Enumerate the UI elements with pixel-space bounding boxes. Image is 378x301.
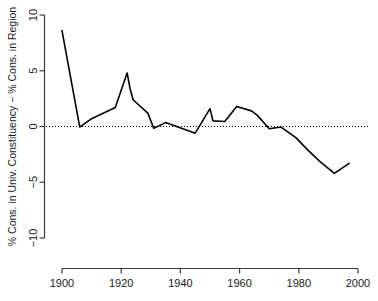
- x-tick-label-1940: 1940: [168, 277, 192, 289]
- line-chart-plot: 10 5 0 −5 −10 % Cons. in Univ. Constitue…: [0, 0, 378, 301]
- chart-container: 10 5 0 −5 −10 % Cons. in Univ. Constitue…: [0, 0, 378, 301]
- y-tick-label-minus-5: −5: [27, 176, 39, 189]
- x-tick-label-1900: 1900: [50, 277, 74, 289]
- x-axis-tick-labels: 1900 1920 1940 1960 1980 2000: [50, 277, 370, 289]
- y-axis-tick-labels: 10 5 0 −5 −10: [27, 9, 39, 247]
- y-tick-label-10: 10: [27, 9, 39, 21]
- y-tick-label-5: 5: [27, 68, 39, 74]
- x-tick-label-2000: 2000: [346, 277, 370, 289]
- y-axis-title: % Cons. in Univ. Constituency − % Cons. …: [6, 7, 18, 247]
- y-tick-label-0: 0: [27, 123, 39, 129]
- y-axis-ticks: [40, 15, 45, 238]
- x-axis-ticks: [62, 269, 358, 274]
- x-tick-label-1980: 1980: [287, 277, 311, 289]
- y-tick-label-minus-10: −10: [27, 229, 39, 248]
- x-tick-label-1920: 1920: [109, 277, 133, 289]
- x-tick-label-1960: 1960: [227, 277, 251, 289]
- data-series-line: [62, 31, 349, 174]
